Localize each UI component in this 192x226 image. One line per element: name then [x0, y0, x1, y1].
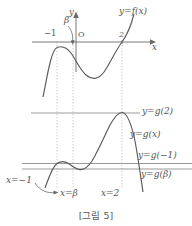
label-origin: O — [78, 31, 85, 39]
vertical-guide-lines — [57, 42, 122, 188]
label-tick-minus-one: −1 — [44, 29, 57, 38]
figure-caption: [그림 5] — [0, 208, 192, 222]
label-beta-angle: β — [64, 16, 69, 25]
label-upper-y-axis: y — [69, 8, 74, 17]
label-upper-x-axis: x — [152, 43, 157, 52]
label-level-g-of-minus-1: y=g(−1) — [138, 151, 177, 160]
beta-pointer-arrow — [68, 26, 73, 41]
label-callout-x-minus-one: x=−1 — [6, 176, 32, 185]
label-y-equals-f-of-x: y=f(x) — [119, 7, 147, 16]
label-tick-x-beta: x=β — [60, 189, 78, 198]
lower-level-lines — [22, 113, 192, 169]
y-axis-arrowhead — [73, 12, 79, 19]
figure-container: y=f(x) y x O β −1 2 y=g(2) y=g(x) y=g(−1… — [0, 0, 192, 226]
label-level-g-of-beta: y=g(β) — [141, 170, 172, 179]
label-tick-two: 2 — [119, 31, 124, 39]
x-minus-one-callout-arrowhead — [54, 190, 59, 194]
label-tick-x-two: x=2 — [101, 189, 119, 198]
label-y-equals-g-of-x: y=g(x) — [130, 130, 161, 139]
label-level-g-of-2: y=g(2) — [142, 107, 173, 116]
curve-g — [45, 113, 143, 193]
upper-axis-arrowheads — [73, 12, 156, 45]
beta-arrowhead — [71, 40, 75, 45]
